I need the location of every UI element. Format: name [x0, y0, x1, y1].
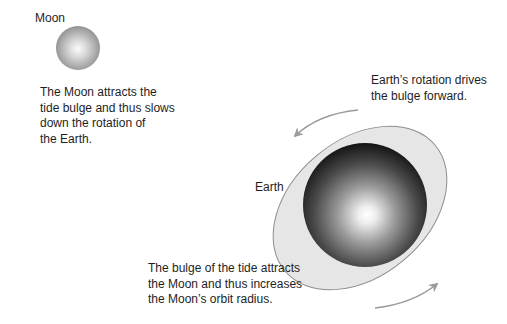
moon-label: Moon	[35, 11, 65, 26]
caption-line: The bulge of the tide attracts	[148, 261, 302, 277]
caption-line: the Moon’s orbit radius.	[148, 292, 302, 308]
bulge-effect-caption: The bulge of the tide attracts the Moon …	[148, 261, 302, 308]
moon-effect-caption: The Moon attracts the tide bulge and thu…	[40, 85, 175, 147]
moon-sphere	[56, 26, 100, 70]
caption-line: the Earth.	[40, 132, 175, 148]
earth-sphere	[303, 143, 427, 267]
rotation-arrow-bottom-icon	[375, 284, 437, 308]
caption-line: tide bulge and thus slows	[40, 101, 175, 117]
earth-rotation-caption: Earth’s rotation drives the bulge forwar…	[371, 73, 487, 104]
caption-line: the bulge forward.	[371, 89, 487, 105]
rotation-arrow-top-icon	[295, 110, 358, 136]
caption-line: Earth’s rotation drives	[371, 73, 487, 89]
earth-label: Earth	[255, 180, 284, 195]
caption-line: The Moon attracts the	[40, 85, 175, 101]
caption-line: the Moon and thus increases	[148, 277, 302, 293]
caption-line: down the rotation of	[40, 116, 175, 132]
